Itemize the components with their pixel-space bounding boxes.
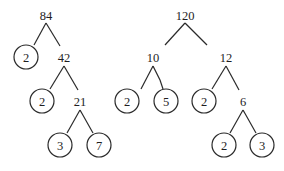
tree-branch-line <box>64 66 78 90</box>
prime-factor-node: 3 <box>250 133 274 157</box>
prime-factor-node: 2 <box>192 89 216 113</box>
tree-branch-line <box>185 23 207 45</box>
composite-node: 84 <box>40 9 53 23</box>
factor-tree-diagram: 84242221371201025122623 <box>0 0 284 171</box>
node-label: 2 <box>23 51 29 65</box>
composite-node: 10 <box>147 51 160 65</box>
composite-node: 21 <box>74 95 87 109</box>
factor-tree-120: 1201025122623 <box>115 9 274 158</box>
node-label: 84 <box>40 9 53 23</box>
tree-branch-line <box>212 66 226 89</box>
node-label: 6 <box>240 95 246 109</box>
tree-branch-line <box>50 66 64 89</box>
tree-branch-line <box>160 80 163 89</box>
factor-tree-84: 8424222137 <box>14 9 111 158</box>
tree-branch-line <box>153 66 160 80</box>
tree-branch-line <box>46 23 60 46</box>
node-label: 2 <box>39 95 45 109</box>
composite-node: 6 <box>240 95 246 109</box>
edges-layer <box>34 23 256 133</box>
prime-factor-node: 5 <box>154 89 178 113</box>
tree-branch-line <box>243 110 256 133</box>
node-label: 2 <box>124 95 130 109</box>
node-label: 42 <box>58 51 71 65</box>
prime-factor-node: 2 <box>212 133 236 157</box>
node-label: 3 <box>57 139 63 153</box>
tree-branch-line <box>230 110 243 133</box>
node-label: 2 <box>221 139 227 153</box>
tree-branch-line <box>165 23 185 45</box>
prime-factor-node: 3 <box>48 133 72 157</box>
node-label: 120 <box>176 9 195 23</box>
composite-node: 120 <box>176 9 195 23</box>
composite-node: 12 <box>220 51 233 65</box>
tree-branch-line <box>80 110 93 133</box>
node-label: 21 <box>74 95 87 109</box>
node-label: 10 <box>147 51 160 65</box>
prime-factor-node: 2 <box>14 45 38 69</box>
node-label: 2 <box>201 95 207 109</box>
diagram-svg: 84242221371201025122623 <box>0 0 284 171</box>
prime-factor-node: 2 <box>30 89 54 113</box>
node-label: 3 <box>259 139 265 153</box>
node-label: 5 <box>163 95 169 109</box>
tree-branch-line <box>34 23 46 45</box>
composite-node: 42 <box>58 51 71 65</box>
tree-branch-line <box>226 66 239 90</box>
prime-factor-node: 2 <box>115 89 139 113</box>
prime-factor-node: 7 <box>87 133 111 157</box>
tree-branch-line <box>67 110 80 133</box>
node-label: 7 <box>96 139 102 153</box>
tree-branch-line <box>141 66 153 89</box>
node-label: 12 <box>220 51 233 65</box>
